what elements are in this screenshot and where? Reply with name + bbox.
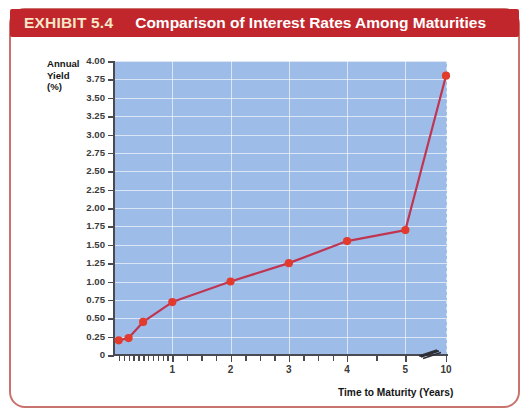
y-axis-tick-label: 3.75	[5, 73, 105, 84]
y-axis-tick	[108, 135, 114, 137]
y-axis-tick	[108, 355, 114, 357]
chart-container: AnnualYield(%) 00.250.500.751.001.251.50…	[0, 40, 531, 420]
x-axis-tick	[124, 356, 125, 361]
x-axis-tick	[148, 356, 149, 361]
y-axis-tick	[108, 98, 114, 100]
exhibit-number-label: EXHIBIT 5.4	[24, 14, 113, 32]
y-axis-tick-label: 0.50	[5, 312, 105, 323]
data-point-marker	[401, 226, 409, 234]
x-axis-tick	[167, 356, 168, 361]
y-axis-tick-label: 3.25	[5, 110, 105, 121]
exhibit-title-text: Comparison of Interest Rates Among Matur…	[135, 14, 486, 32]
x-axis-tick-label: 3	[269, 364, 309, 375]
exhibit-title-bar: EXHIBIT 5.4 Comparison of Interest Rates…	[10, 9, 519, 37]
y-axis-tick	[108, 79, 114, 81]
data-point-marker	[168, 298, 176, 306]
y-axis-tick-label: 0.75	[5, 294, 105, 305]
x-axis-tick	[163, 356, 164, 361]
data-point-marker	[226, 277, 234, 285]
data-point-marker	[442, 72, 450, 80]
x-axis-tick-label: 10	[426, 364, 466, 375]
y-axis-tick-labels: 00.250.500.751.001.251.501.752.002.252.5…	[0, 40, 105, 370]
x-axis-tick	[289, 356, 290, 362]
x-axis-tick	[143, 356, 144, 361]
y-axis-tick-label: 1.75	[5, 220, 105, 231]
data-point-marker	[343, 237, 351, 245]
x-axis-tick-label: 1	[152, 364, 192, 375]
x-axis-tick	[376, 356, 377, 361]
y-axis-tick	[108, 245, 114, 247]
y-axis-tick	[108, 282, 114, 284]
y-axis-tick-label: 1.50	[5, 239, 105, 250]
x-axis-tick	[172, 356, 173, 362]
y-axis-tick-label: 2.50	[5, 165, 105, 176]
x-axis-tick	[129, 356, 130, 361]
x-axis-tick	[201, 356, 202, 361]
x-axis-tick	[347, 356, 348, 362]
x-axis-tick	[119, 356, 120, 361]
y-axis-tick	[108, 171, 114, 173]
y-axis-tick	[108, 116, 114, 118]
y-axis-tick-label: 2.25	[5, 184, 105, 195]
y-axis-tick	[108, 263, 114, 265]
data-point-marker	[115, 336, 123, 344]
y-axis-tick-label: 0	[5, 349, 105, 360]
x-axis-tick	[158, 356, 159, 361]
y-axis-tick	[108, 61, 114, 63]
y-axis-tick	[108, 318, 114, 320]
y-axis-tick	[108, 300, 114, 302]
x-axis-tick-label: 4	[327, 364, 367, 375]
axis-break-symbol	[417, 345, 447, 361]
series-line	[119, 76, 446, 341]
y-axis-tick-label: 3.00	[5, 129, 105, 140]
x-axis-tick	[153, 356, 154, 361]
data-point-marker	[139, 318, 147, 326]
y-axis-tick-label: 4.00	[5, 55, 105, 66]
series-line-chart	[114, 61, 447, 355]
x-axis-tick	[216, 356, 217, 361]
y-axis-tick-label: 0.25	[5, 331, 105, 342]
y-axis-tick-label: 3.50	[5, 92, 105, 103]
x-axis-tick	[231, 356, 232, 362]
x-axis-tick	[318, 356, 319, 361]
x-axis-tick	[405, 356, 406, 362]
y-axis-tick-label: 1.00	[5, 276, 105, 287]
x-axis-tick	[245, 356, 246, 361]
x-axis-tick	[333, 356, 334, 361]
x-axis-tick	[138, 356, 139, 361]
x-axis-tick	[260, 356, 261, 361]
y-axis-tick	[108, 153, 114, 155]
x-axis-tick	[133, 356, 134, 361]
y-axis-tick-label: 2.00	[5, 202, 105, 213]
x-axis-title: Time to Maturity (Years)	[338, 387, 453, 398]
y-axis-tick-label: 2.75	[5, 147, 105, 158]
y-axis-tick	[108, 226, 114, 228]
x-axis-tick-label: 2	[211, 364, 251, 375]
y-axis-tick-label: 1.25	[5, 257, 105, 268]
x-axis-tick	[303, 356, 304, 361]
y-axis-tick	[108, 208, 114, 210]
data-point-marker	[285, 259, 293, 267]
x-axis-tick-label: 5	[385, 364, 425, 375]
x-axis-tick	[187, 356, 188, 361]
data-point-marker	[124, 334, 132, 342]
y-axis-tick	[108, 337, 114, 339]
y-axis-tick	[108, 190, 114, 192]
x-axis-tick	[274, 356, 275, 361]
